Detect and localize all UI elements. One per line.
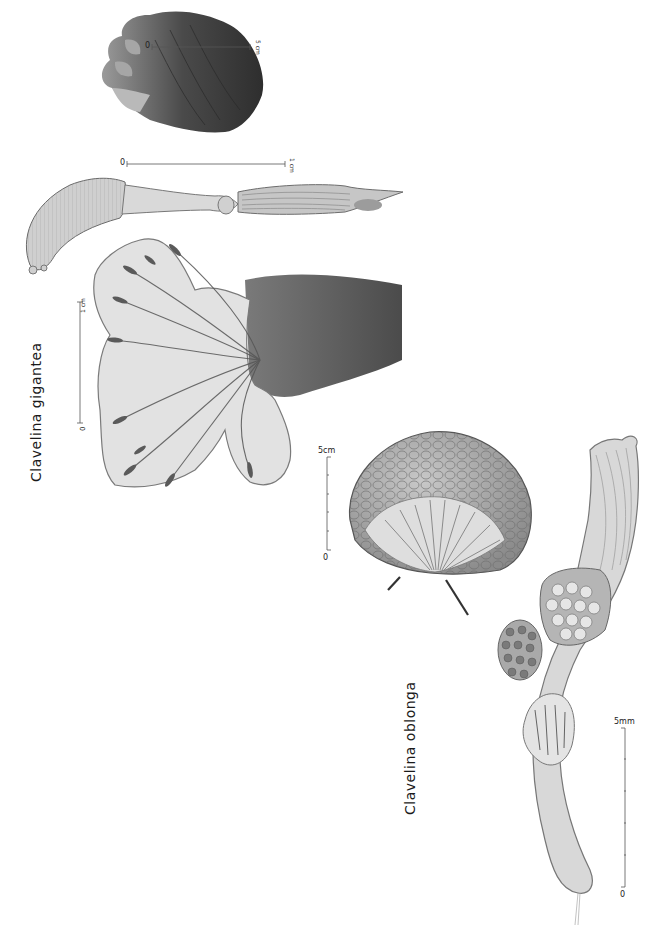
scale-label-colony-start: 0	[145, 41, 150, 50]
gigantea-colony-figure	[102, 12, 263, 133]
scale-label-dome-start: 0	[323, 553, 328, 562]
species-label-oblonga: Clavelina oblonga	[402, 681, 418, 815]
scale-bar-oblonga-zooid	[621, 728, 626, 887]
scale-label-zooid-end: 1 cm	[289, 158, 296, 173]
scale-bar-gigantea-zooid	[127, 161, 285, 167]
gigantea-zooid-figure	[26, 178, 403, 274]
scale-label-oblonga-zooid-start: 0	[620, 890, 625, 899]
scale-label-dome-end: 5cm	[318, 446, 335, 455]
scale-bar-gigantea-head	[77, 302, 83, 423]
scale-label-zooid-start: 0	[120, 158, 125, 167]
oblonga-dome-figure	[350, 432, 532, 615]
scale-label-colony-end: 5 cm	[255, 40, 262, 55]
scale-bar-oblonga-dome	[327, 457, 331, 550]
scale-label-oblonga-zooid-end: 5mm	[614, 717, 635, 726]
species-label-gigantea: Clavelina gigantea	[28, 342, 44, 482]
gigantea-head-figure	[94, 239, 402, 488]
scale-label-head-end: 1 cm	[79, 298, 86, 313]
scale-label-head-start: 0	[79, 427, 87, 431]
plate-illustrations	[0, 0, 653, 931]
